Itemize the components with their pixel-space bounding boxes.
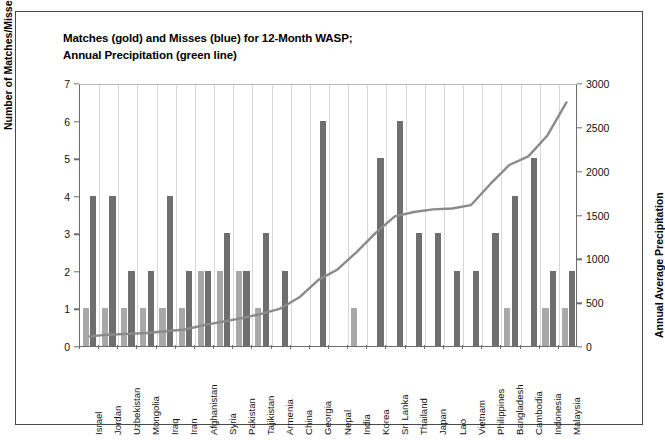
chart-frame: Matches (gold) and Misses (blue) for 12-… — [15, 11, 643, 425]
y-axis-left-tick-label: 0 — [64, 341, 70, 353]
x-axis-tick-label: Jordan — [112, 406, 123, 435]
x-axis-tick — [347, 345, 348, 349]
y-axis-right-tick-label: 1000 — [586, 253, 609, 265]
x-axis-tick-label: Pakistan — [246, 398, 257, 435]
x-axis-tick — [213, 345, 214, 349]
y-axis-right-tick — [577, 346, 582, 347]
x-axis-tick — [385, 345, 386, 349]
x-axis-tick-label: Israel — [93, 412, 104, 435]
x-axis-tick — [232, 345, 233, 349]
x-axis-tick-label: Uzbekistan — [131, 388, 142, 435]
x-axis-tick-label: Bangladesh — [514, 384, 525, 435]
x-axis-labels: IsraelJordanUzbekistanMongoliaIraqIranAf… — [79, 349, 577, 439]
y-axis-left-tick-label: 6 — [64, 116, 70, 128]
x-axis-tick-label: Thailand — [418, 398, 429, 435]
chart-title-line1: Matches (gold) and Misses (blue) for 12-… — [63, 30, 583, 47]
x-axis-tick — [443, 345, 444, 349]
x-axis-tick — [366, 345, 367, 349]
x-axis-tick — [405, 345, 406, 349]
x-axis-tick — [481, 345, 482, 349]
y-axis-left-tick-label: 1 — [64, 303, 70, 315]
y-axis-left-tick-label: 5 — [64, 153, 70, 165]
x-axis-tick — [136, 345, 137, 349]
y-axis-right-tick-label: 500 — [586, 297, 604, 309]
x-axis-tick — [424, 345, 425, 349]
chart-title: Matches (gold) and Misses (blue) for 12-… — [63, 30, 583, 64]
x-axis-tick-label: Cambodia — [533, 391, 544, 435]
plot-area — [79, 84, 577, 347]
x-axis-tick-label: Georgia — [322, 401, 333, 435]
x-axis-tick — [539, 345, 540, 349]
y-axis-left-tick-label: 4 — [64, 191, 70, 203]
x-axis-tick — [98, 345, 99, 349]
y-axis-right-tick — [577, 302, 582, 303]
x-axis-tick-label: Syria — [227, 413, 238, 435]
y-axis-right-tick — [577, 127, 582, 128]
chart-title-line2: Annual Precipitation (green line) — [63, 47, 583, 64]
x-axis-tick-label: Malaysia — [571, 397, 582, 435]
x-axis-tick-label: Mongolia — [150, 396, 161, 435]
x-axis-tick — [117, 345, 118, 349]
y-axis-right-tick-label: 1500 — [586, 210, 609, 222]
x-axis-tick-label: Sri Lanka — [399, 394, 410, 435]
x-axis-tick — [558, 345, 559, 349]
x-axis-tick — [271, 345, 272, 349]
y-axis-right-tick — [577, 215, 582, 216]
x-axis-tick-label: Armenia — [284, 399, 295, 435]
x-axis-tick-label: India — [361, 414, 372, 435]
x-axis-tick-label: Japan — [437, 409, 448, 435]
x-axis-tick — [251, 345, 252, 349]
y-axis-right-tick-label: 0 — [586, 341, 592, 353]
x-axis-tick-label: Nepal — [342, 410, 353, 435]
y-axis-right-tick-label: 2500 — [586, 122, 609, 134]
x-axis-tick — [194, 345, 195, 349]
y-axis-right-tick — [577, 171, 582, 172]
x-axis-tick-label: Philippines — [495, 389, 506, 435]
y-axis-left-tick-label: 7 — [64, 78, 70, 90]
x-axis-tick-label: Tajikistan — [265, 396, 276, 435]
y-axis-left-title: Number of Matches/Misses — [2, 0, 14, 130]
x-axis-tick-label: China — [303, 410, 314, 435]
x-axis-tick-label: Iraq — [169, 418, 180, 435]
y-axis-left-tick-label: 2 — [64, 266, 70, 278]
x-axis-tick — [175, 345, 176, 349]
x-axis-tick — [290, 345, 291, 349]
y-axis-right-tick — [577, 83, 582, 84]
x-axis-tick — [328, 345, 329, 349]
y-axis-right-tick-label: 2000 — [586, 166, 609, 178]
y-axis-right-title: Annual Average Precipitation — [653, 192, 665, 338]
x-axis-tick — [500, 345, 501, 349]
y-axis-right-tick — [577, 259, 582, 260]
x-axis-tick-label: Lao — [457, 419, 468, 435]
x-axis-tick-label: Afghanistan — [208, 384, 219, 435]
x-axis-tick — [79, 345, 80, 349]
x-axis-tick — [156, 345, 157, 349]
precipitation-line-layer — [80, 85, 576, 346]
x-axis-tick-label: Vietnam — [476, 400, 487, 435]
x-axis-tick — [520, 345, 521, 349]
y-axis-right-tick-label: 3000 — [586, 78, 609, 90]
x-axis-tick-label: Iran — [188, 418, 199, 435]
x-axis-tick — [462, 345, 463, 349]
x-axis-tick — [309, 345, 310, 349]
precipitation-line — [90, 102, 567, 336]
y-axis-left-tick-label: 3 — [64, 228, 70, 240]
x-axis-tick-label: Indonesia — [552, 393, 563, 435]
x-axis-tick-label: Korea — [380, 409, 391, 435]
